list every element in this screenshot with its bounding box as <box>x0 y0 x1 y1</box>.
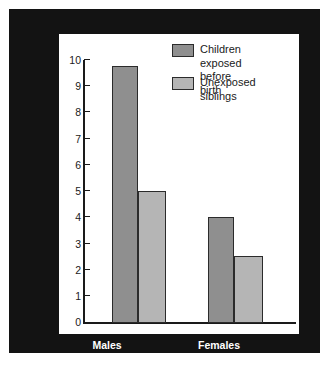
y-tick-5: 5 <box>59 185 93 197</box>
legend-swatch-exposed <box>172 44 194 57</box>
y-tick-mark <box>84 85 90 86</box>
y-tick-label-3: 3 <box>61 238 81 250</box>
y-tick-label-1: 1 <box>61 290 81 302</box>
y-tick-4: 4 <box>59 211 93 223</box>
bar-females-unexposed <box>234 256 263 323</box>
plot-area: 10 9 8 7 6 5 4 <box>59 34 299 334</box>
legend-label-unexposed: Unexposed siblings <box>200 76 256 103</box>
y-tick-3: 3 <box>59 238 93 250</box>
y-tick-label-6: 6 <box>61 159 81 171</box>
y-tick-mark <box>84 295 90 296</box>
y-tick-label-5: 5 <box>61 185 81 197</box>
legend-swatch-unexposed <box>172 77 194 90</box>
y-tick-label-4: 4 <box>61 211 81 223</box>
y-tick-label-8: 8 <box>61 106 81 118</box>
chart-frame-border: Physical Aggression Score Males Females … <box>9 9 320 353</box>
y-tick-mark <box>84 138 90 139</box>
chart-figure: Physical Aggression Score Males Females … <box>0 0 329 367</box>
y-tick-6: 6 <box>59 159 93 171</box>
y-tick-2: 2 <box>59 264 93 276</box>
y-tick-mark <box>84 243 90 244</box>
x-axis-category-label-males: Males <box>47 337 167 353</box>
y-tick-mark <box>84 269 90 270</box>
y-tick-mark <box>84 216 90 217</box>
legend-entry-unexposed: Unexposed siblings <box>172 76 256 103</box>
y-tick-8: 8 <box>59 106 93 118</box>
y-tick-label-7: 7 <box>61 133 81 145</box>
y-tick-9: 9 <box>59 80 93 92</box>
y-tick-mark <box>84 59 90 60</box>
y-tick-label-2: 2 <box>61 264 81 276</box>
bar-females-exposed <box>208 217 234 323</box>
y-tick-label-10: 10 <box>61 54 81 66</box>
y-tick-mark <box>84 164 90 165</box>
y-tick-1: 1 <box>59 290 93 302</box>
y-tick-7: 7 <box>59 133 93 145</box>
bar-males-exposed <box>112 66 138 323</box>
y-tick-0: 0 <box>59 316 93 328</box>
y-tick-mark <box>84 111 90 112</box>
y-tick-10: 10 <box>59 54 93 66</box>
bar-males-unexposed <box>138 191 166 323</box>
y-tick-label-0: 0 <box>61 316 81 328</box>
x-axis-category-label-females: Females <box>159 337 279 353</box>
y-tick-mark <box>84 190 90 191</box>
y-tick-label-9: 9 <box>61 80 81 92</box>
